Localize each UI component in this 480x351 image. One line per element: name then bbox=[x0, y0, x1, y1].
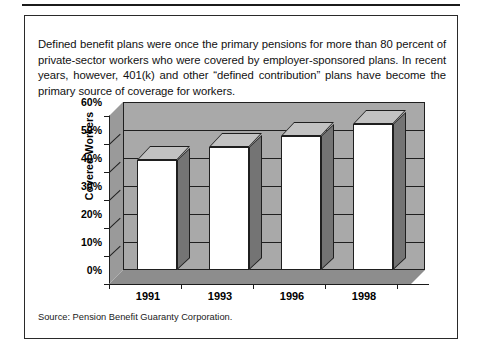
y-tick-label-50: 50% bbox=[60, 124, 102, 136]
x-axis-line bbox=[109, 284, 429, 285]
bar-side-1991 bbox=[177, 148, 190, 270]
bar-front-1991 bbox=[137, 160, 177, 270]
bar-1996[interactable] bbox=[281, 136, 321, 270]
bar-side-1998 bbox=[393, 112, 406, 270]
bar-side-1993 bbox=[249, 135, 262, 270]
bar-1998[interactable] bbox=[353, 124, 393, 270]
figure-box: Defined benefit plans were once the prim… bbox=[24, 15, 458, 339]
y-tick-label-30: 30% bbox=[60, 180, 102, 192]
x-tick-label-1998: 1998 bbox=[352, 290, 376, 302]
x-tick-label-1996: 1996 bbox=[280, 290, 304, 302]
top-divider-rule bbox=[22, 4, 460, 6]
figure-page: Defined benefit plans were once the prim… bbox=[0, 0, 480, 351]
x-tick-label-1993: 1993 bbox=[208, 290, 232, 302]
bar-1991[interactable] bbox=[137, 160, 177, 270]
figure-caption: Defined benefit plans were once the prim… bbox=[38, 37, 446, 99]
y-tick-label-10: 10% bbox=[60, 236, 102, 248]
x-axis-tick-mark bbox=[109, 284, 110, 289]
bar-front-1996 bbox=[281, 136, 321, 270]
y-tick-label-40: 40% bbox=[60, 152, 102, 164]
x-axis-tick-mark bbox=[181, 284, 182, 289]
x-axis-tick-mark bbox=[253, 284, 254, 289]
x-axis-tick-mark bbox=[325, 284, 326, 289]
plot-floor bbox=[109, 270, 425, 284]
x-tick-label-1991: 1991 bbox=[136, 290, 160, 302]
bar-1993[interactable] bbox=[209, 147, 249, 270]
bar-front-1993 bbox=[209, 147, 249, 270]
y-tick-label-0: 0% bbox=[60, 264, 102, 276]
x-axis-tick-mark bbox=[397, 284, 398, 289]
bar-chart: Covered Workers 0% 10% 20% 30% 40% 50% 6… bbox=[38, 102, 446, 297]
plot-area bbox=[109, 102, 425, 284]
y-tick-label-20: 20% bbox=[60, 208, 102, 220]
source-note: Source: Pension Benefit Guaranty Corpora… bbox=[38, 312, 232, 322]
y-tick-label-60: 60% bbox=[60, 96, 102, 108]
y-axis-labels: 0% 10% 20% 30% 40% 50% 60% bbox=[60, 102, 102, 284]
bar-side-1996 bbox=[321, 124, 334, 270]
bar-front-1998 bbox=[353, 124, 393, 270]
